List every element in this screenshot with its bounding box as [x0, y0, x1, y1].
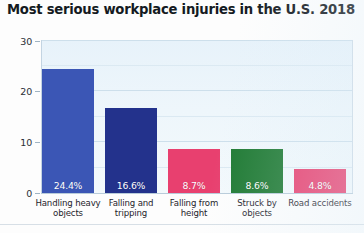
x-label-line1: Falling from: [160, 198, 228, 208]
bar-handling-heavy-objects[interactable]: 24.4%: [42, 69, 94, 193]
y-tick-mark-0: [35, 193, 40, 194]
x-label-line2: objects: [223, 208, 291, 218]
x-label-line2: height: [160, 208, 228, 218]
y-tick-mark-10: [35, 142, 40, 143]
x-label-line1: Handling heavy: [34, 198, 102, 208]
bar-value-label: 8.7%: [168, 180, 220, 191]
x-label-line2: tripping: [97, 208, 165, 218]
x-label-falling-from-height: Falling from height: [160, 198, 228, 218]
y-tick-30: 30: [2, 36, 32, 47]
x-label-line1: Road accidents: [286, 198, 354, 208]
y-tick-20: 20: [2, 86, 32, 97]
x-label-line2: objects: [34, 208, 102, 218]
x-label-line1: Struck by: [223, 198, 291, 208]
x-label-road-accidents: Road accidents: [286, 198, 354, 208]
bar-value-label: 8.6%: [231, 180, 283, 191]
bar-falling-from-height[interactable]: 8.7%: [168, 149, 220, 193]
chart-figure: Most serious workplace injuries in the U…: [0, 0, 364, 233]
y-tick-0: 0: [2, 188, 32, 199]
x-axis-line: [41, 193, 353, 194]
y-tick-mark-30: [35, 41, 40, 42]
bar-struck-by-objects[interactable]: 8.6%: [231, 149, 283, 193]
page-bottom-rule: [0, 224, 364, 225]
chart-title: Most serious workplace injuries in the U…: [7, 2, 357, 17]
x-label-falling-and-tripping: Falling and tripping: [97, 198, 165, 218]
y-tick-mark-20: [35, 91, 40, 92]
bar-value-label: 16.6%: [105, 180, 157, 191]
x-label-line1: Falling and: [97, 198, 165, 208]
bar-road-accidents[interactable]: 4.8%: [294, 169, 346, 193]
bar-falling-and-tripping[interactable]: 16.6%: [105, 108, 157, 193]
y-tick-10: 10: [2, 137, 32, 148]
bars-layer: 24.4% 16.6% 8.7% 8.6% 4.8%: [41, 40, 353, 193]
x-label-handling-heavy-objects: Handling heavy objects: [34, 198, 102, 218]
bar-value-label: 24.4%: [42, 180, 94, 191]
bar-value-label: 4.8%: [294, 180, 346, 191]
x-label-struck-by-objects: Struck by objects: [223, 198, 291, 218]
